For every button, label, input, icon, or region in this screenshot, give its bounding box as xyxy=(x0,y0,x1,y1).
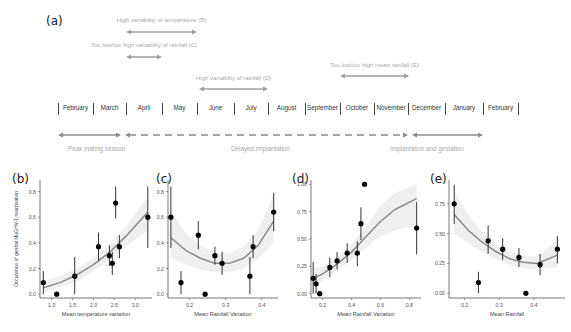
data-point xyxy=(476,280,481,285)
data-point xyxy=(523,291,528,296)
confidence-band xyxy=(454,191,557,270)
svg-text:0.50: 0.50 xyxy=(435,231,445,237)
svg-text:0.75: 0.75 xyxy=(435,201,445,207)
svg-text:0.3: 0.3 xyxy=(496,302,503,308)
svg-text:0.00: 0.00 xyxy=(435,290,445,296)
svg-text:Mean Rainfall: Mean Rainfall xyxy=(490,311,524,317)
svg-text:0.25: 0.25 xyxy=(435,260,445,266)
data-point xyxy=(555,247,560,252)
data-point xyxy=(486,238,491,243)
data-point xyxy=(537,262,542,267)
scatter-plot-3: 0.000.250.500.750.20.30.4Mean Rainfall xyxy=(0,0,571,332)
data-point xyxy=(452,201,457,206)
svg-text:0.2: 0.2 xyxy=(461,302,468,308)
data-point xyxy=(500,247,505,252)
svg-text:0.4: 0.4 xyxy=(530,302,537,308)
data-point xyxy=(516,255,521,260)
charts-layer: (b)0.00.20.40.60.81.01.52.02.53.0Mean te… xyxy=(0,0,571,332)
